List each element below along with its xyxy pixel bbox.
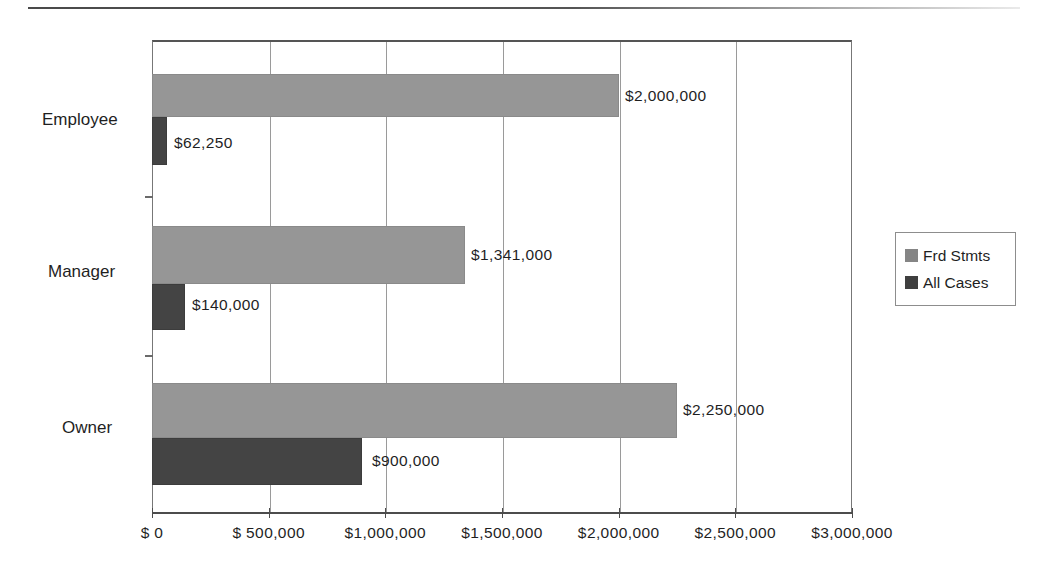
bar-label-owner-all-cases: $900,000 [372,452,440,470]
y-axis-tick-1 [145,196,153,198]
legend-swatch-icon-all-cases [905,276,918,289]
grouped-bar-chart: $2,000,000 $62,250 Employee $1,341,000 $… [0,0,1056,582]
x-axis-tick-1500000 [502,508,503,518]
bar-employee-all-cases [152,117,167,165]
bar-manager-frd-stmts [152,226,465,284]
bar-employee-frd-stmts [152,74,619,117]
gridline-2500000 [736,42,737,512]
chart-legend: Frd Stmts All Cases [895,232,1016,306]
category-label-manager: Manager [48,262,115,282]
x-axis-label-1500000: $1,500,000 [461,524,543,542]
bar-owner-frd-stmts [152,383,677,438]
y-axis-tick-2 [145,355,153,357]
category-label-owner: Owner [62,418,112,438]
x-axis-label-1000000: $1,000,000 [345,524,427,542]
bar-owner-all-cases [152,438,362,485]
x-axis-label-2500000: $2,500,000 [695,524,777,542]
bar-label-employee-frd-stmts: $2,000,000 [625,87,707,105]
x-axis-label-500000: $ 500,000 [232,524,305,542]
bar-manager-all-cases [152,284,185,330]
x-axis-tick-3000000 [852,508,853,518]
category-label-employee: Employee [42,110,118,130]
legend-swatch-icon-frd-stmts [905,249,918,262]
x-axis-tick-500000 [269,508,270,518]
legend-label-all-cases: All Cases [923,274,988,292]
x-axis-tick-0 [152,508,153,518]
legend-entry-all-cases: All Cases [905,269,1015,296]
x-axis-label-3000000: $3,000,000 [811,524,893,542]
legend-label-frd-stmts: Frd Stmts [923,247,990,265]
legend-entry-frd-stmts: Frd Stmts [905,242,1015,269]
x-axis-tick-2000000 [619,508,620,518]
x-axis-tick-2500000 [735,508,736,518]
bar-label-manager-frd-stmts: $1,341,000 [471,246,553,264]
gridline-2000000 [620,42,621,512]
bar-label-manager-all-cases: $140,000 [192,296,260,314]
bar-label-owner-frd-stmts: $2,250,000 [683,401,765,419]
bar-label-employee-all-cases: $62,250 [174,134,233,152]
x-axis-label-2000000: $2,000,000 [578,524,660,542]
x-axis-label-0: $ 0 [141,524,164,542]
x-axis-tick-1000000 [385,508,386,518]
